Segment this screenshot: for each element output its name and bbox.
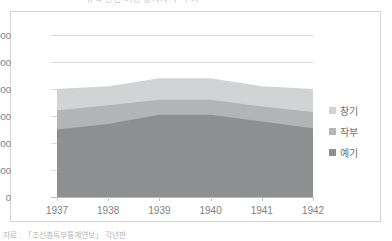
x-tick-mark-1938 [108, 197, 109, 201]
stacked-area-plot [57, 35, 313, 197]
x-tick-mark-1941 [262, 197, 263, 201]
legend-label: 작부 [340, 124, 358, 139]
plot-area [57, 35, 313, 197]
chart-frame: 020004000600080001000012000 193719381939… [10, 11, 381, 222]
x-tick-label-1937: 1937 [46, 205, 68, 216]
square-swatch-icon [329, 149, 336, 156]
y-tick-label-4000: 4000 [0, 138, 11, 149]
y-tick-label-8000: 8000 [0, 84, 11, 95]
gridline-0 [51, 197, 313, 198]
x-tick-label-1939: 1939 [148, 205, 170, 216]
y-tick-label-12000: 12000 [0, 30, 11, 41]
x-tick-label-1942: 1942 [302, 205, 324, 216]
legend-item-작부[interactable]: 작부 [329, 121, 358, 142]
x-tick-mark-1937 [57, 197, 58, 201]
x-tick-label-1938: 1938 [97, 205, 119, 216]
chart-title-clipped: 유곽 관련 여성 종사자 수 추이 [0, 0, 392, 9]
legend-item-예기[interactable]: 예기 [329, 142, 358, 163]
x-tick-mark-1940 [211, 197, 212, 201]
square-swatch-icon [329, 107, 336, 114]
y-tick-label-10000: 10000 [0, 57, 11, 68]
x-tick-mark-1939 [159, 197, 160, 201]
source-caption-text: 자료 : 「조선총독부통계연보」 각년판 [3, 230, 126, 240]
square-swatch-icon [329, 128, 336, 135]
chart-legend: 창기작부예기 [329, 100, 358, 163]
x-tick-label-1940: 1940 [199, 205, 221, 216]
legend-label: 예기 [340, 145, 358, 160]
legend-label: 창기 [340, 103, 358, 118]
x-tick-label-1941: 1941 [251, 205, 273, 216]
y-tick-label-6000: 6000 [0, 111, 11, 122]
area-series-예기 [57, 115, 313, 197]
chart-title: 유곽 관련 여성 종사자 수 추이 [86, 0, 198, 5]
y-tick-label-0: 0 [0, 192, 11, 203]
y-tick-label-2000: 2000 [0, 165, 11, 176]
source-caption-clipped: 자료 : 「조선총독부통계연보」 각년판 [0, 230, 392, 241]
legend-item-창기[interactable]: 창기 [329, 100, 358, 121]
x-tick-mark-1942 [313, 197, 314, 201]
